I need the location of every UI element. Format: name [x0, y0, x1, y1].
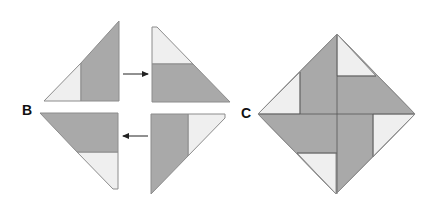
dark-region — [81, 21, 119, 101]
top-left-piece — [44, 21, 119, 101]
bottom-right-piece — [151, 114, 225, 194]
diagram-canvas — [0, 0, 436, 208]
figure-c — [258, 34, 415, 194]
light-region — [77, 152, 118, 189]
light-region — [188, 114, 225, 156]
label-b: B — [22, 103, 32, 117]
figure-b — [40, 21, 230, 194]
dark-region — [152, 64, 230, 102]
dark-region — [40, 113, 118, 152]
top-right-piece — [152, 27, 230, 102]
light-region — [152, 27, 193, 64]
bottom-left-piece — [40, 113, 118, 189]
dark-region — [151, 114, 188, 194]
label-c: C — [241, 106, 251, 120]
light-region — [44, 63, 81, 101]
